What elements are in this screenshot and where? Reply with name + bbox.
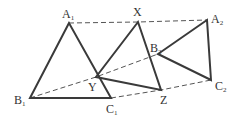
triangle-a2b2c2 (158, 20, 211, 80)
label-c2: C2 (215, 79, 227, 94)
geometry-diagram: A1 B1 C1 X Y Z A2 B2 C2 (0, 0, 239, 120)
label-z: Z (160, 93, 167, 107)
label-b1: B1 (14, 93, 26, 108)
label-a1: A1 (62, 7, 75, 22)
label-x: X (133, 5, 142, 19)
label-c1: C1 (106, 102, 118, 117)
label-y: Y (88, 80, 97, 94)
label-a2: A2 (211, 12, 224, 27)
label-b2: B2 (150, 41, 162, 56)
triangle-a1b1c1 (30, 23, 111, 98)
